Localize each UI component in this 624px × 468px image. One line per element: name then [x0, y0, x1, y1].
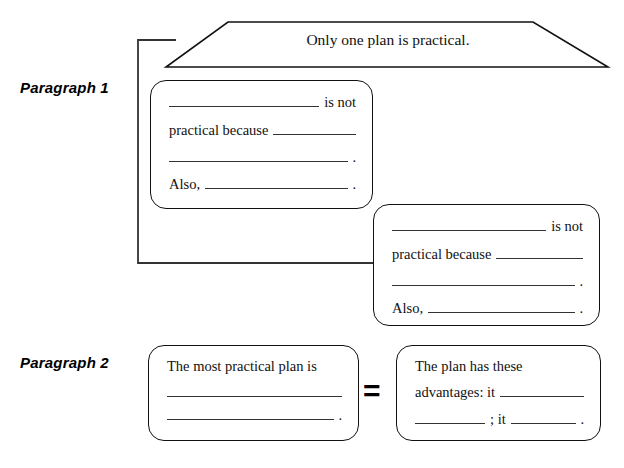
line-period: . [338, 407, 342, 424]
fill-in-line: is not [169, 93, 356, 111]
fill-in-line: ; it . [415, 409, 584, 427]
line-prefix-text: Also, [169, 176, 200, 193]
line-prefix-text: Also, [392, 300, 423, 317]
line-suffix-text: is not [324, 94, 356, 111]
paragraph-2-label: Paragraph 2 [20, 354, 109, 371]
fill-in-line [167, 383, 342, 397]
blank-rule[interactable] [428, 299, 575, 313]
paragraph-1-second-reason-box[interactable]: is not practical because . Also, . [373, 204, 600, 326]
blank-rule[interactable] [169, 148, 348, 162]
line-prefix-text: practical because [392, 246, 491, 263]
fill-in-line: practical because [169, 120, 356, 138]
blank-rule[interactable] [496, 244, 583, 258]
blank-rule[interactable] [169, 93, 319, 107]
line-period: . [580, 411, 584, 428]
paragraph-1-label: Paragraph 1 [20, 79, 109, 96]
paragraph-1-first-reason-box[interactable]: is not practical because . Also, . [150, 80, 373, 209]
paragraph-2-plan-box[interactable]: The most practical plan is . [148, 345, 359, 441]
box-content: The plan has these advantages: it ; it . [397, 346, 600, 440]
line-mid-text: ; it [490, 411, 506, 428]
fill-in-line: . [169, 148, 356, 166]
line-suffix-text: is not [551, 218, 583, 235]
line-period: . [579, 300, 583, 317]
line-period: . [352, 149, 356, 166]
equals-sign: = [363, 376, 381, 406]
fill-in-line: advantages: it [415, 383, 584, 401]
blank-rule[interactable] [392, 272, 575, 286]
banner-statement-text: Only one plan is practical. [168, 31, 608, 49]
blank-rule[interactable] [415, 409, 485, 423]
fill-in-line: . [392, 272, 583, 290]
line-text: The plan has these [415, 358, 523, 375]
line-period: . [352, 176, 356, 193]
paragraph-2-advantages-box[interactable]: The plan has these advantages: it ; it . [396, 345, 601, 441]
blank-rule[interactable] [205, 175, 348, 189]
static-text-line: The plan has these [415, 358, 584, 375]
line-prefix-text: practical because [169, 122, 268, 139]
blank-rule[interactable] [167, 405, 334, 419]
blank-rule[interactable] [511, 409, 577, 423]
box-content: is not practical because . Also, . [151, 81, 372, 208]
fill-in-line: . [167, 405, 342, 423]
fill-in-line: Also, . [392, 299, 583, 317]
box-content: is not practical because . Also, . [374, 205, 599, 325]
box-content: The most practical plan is . [149, 346, 358, 440]
line-prefix-text: advantages: it [415, 384, 495, 401]
worksheet-canvas: Only one plan is practical. Paragraph 1 … [0, 0, 624, 468]
fill-in-line: Also, . [169, 175, 356, 193]
static-text-line: The most practical plan is [167, 358, 342, 375]
blank-rule[interactable] [167, 383, 342, 397]
line-text: The most practical plan is [167, 358, 317, 375]
blank-rule[interactable] [273, 120, 356, 134]
blank-rule[interactable] [500, 383, 584, 397]
line-period: . [579, 273, 583, 290]
fill-in-line: practical because [392, 244, 583, 262]
fill-in-line: is not [392, 217, 583, 235]
blank-rule[interactable] [392, 217, 546, 231]
